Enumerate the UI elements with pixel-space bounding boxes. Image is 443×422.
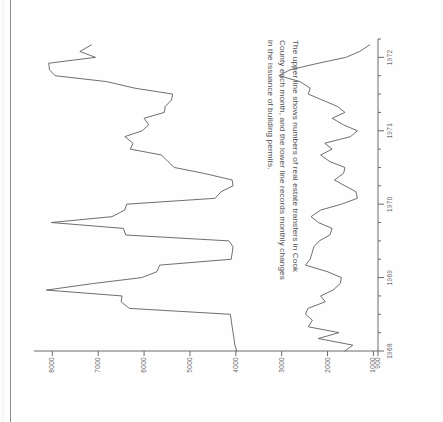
y-tick-label: 4000 (232, 357, 239, 385)
y-tick-label: 8000 (48, 357, 55, 385)
y-tick-label: 2000 (324, 357, 331, 385)
caption-line-1: The upper line shows numbers of real est… (288, 40, 301, 340)
scanned-page: 80007000600050004000300020001000900 1968… (0, 0, 443, 422)
chart-svg (26, 35, 416, 387)
chart-series-layer (46, 45, 369, 351)
plot-area: 80007000600050004000300020001000900 1968… (26, 35, 416, 387)
caption-line-2: County each month, and the lower line re… (276, 40, 289, 340)
x-tick-label: 1971 (386, 117, 393, 145)
x-tick-label: 1968 (386, 337, 393, 365)
chart-axes (34, 39, 384, 356)
scan-edge-line (10, 0, 11, 422)
y-tick-label: 7000 (94, 357, 101, 385)
y-tick-label: 900 (374, 357, 381, 385)
x-tick-label: 1969 (386, 264, 393, 292)
x-tick-label: 1972 (386, 43, 393, 71)
chart-figure: 80007000600050004000300020001000900 1968… (26, 35, 416, 387)
scan-margin (0, 0, 4, 422)
figure-caption: The upper line shows numbers of real est… (263, 40, 301, 340)
y-tick-label: 6000 (140, 357, 147, 385)
y-tick-label: 5000 (186, 357, 193, 385)
y-tick-label: 3000 (278, 357, 285, 385)
caption-line-3: in the issuance of building permits. (263, 40, 276, 340)
series-line-transfers (46, 45, 236, 351)
x-tick-label: 1970 (386, 190, 393, 218)
